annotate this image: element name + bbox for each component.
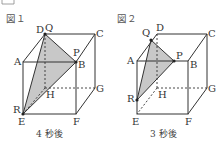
label-A: A bbox=[13, 56, 22, 67]
label-H: H bbox=[158, 89, 167, 100]
label-B: B bbox=[190, 59, 197, 70]
figure-2-caption: 3 秒後 bbox=[150, 128, 177, 139]
figure-1: 図１ D Q C A P B H G R E bbox=[6, 13, 104, 139]
figure-1-caption: 4 秒後 bbox=[36, 128, 63, 139]
figure-1-shaded-triangle bbox=[23, 34, 76, 114]
label-Q: Q bbox=[142, 27, 150, 38]
label-A: A bbox=[126, 55, 135, 66]
cropped-box bbox=[0, 0, 14, 4]
diagram-canvas: 図１ D Q C A P B H G R E bbox=[0, 0, 223, 153]
label-R: R bbox=[13, 104, 21, 115]
label-C: C bbox=[208, 28, 216, 39]
label-G: G bbox=[208, 83, 216, 94]
label-P: P bbox=[73, 47, 80, 58]
figure-2-shaded-triangle bbox=[137, 40, 174, 100]
figure-2: 図２ Q D C A P B H G R E F 3 秒 bbox=[117, 13, 216, 139]
label-E: E bbox=[18, 116, 25, 127]
label-D: D bbox=[156, 22, 164, 33]
label-E: E bbox=[132, 116, 139, 127]
label-R: R bbox=[127, 93, 135, 104]
label-F: F bbox=[185, 116, 192, 127]
figure-2-title: 図２ bbox=[117, 13, 137, 24]
label-C: C bbox=[96, 28, 104, 39]
label-H: H bbox=[46, 89, 55, 100]
figure-1-title: 図１ bbox=[6, 13, 26, 24]
label-G: G bbox=[96, 83, 104, 94]
label-B: B bbox=[78, 59, 85, 70]
label-F: F bbox=[73, 116, 80, 127]
label-D: D bbox=[36, 24, 44, 35]
label-P: P bbox=[176, 50, 183, 61]
label-Q: Q bbox=[45, 22, 53, 33]
